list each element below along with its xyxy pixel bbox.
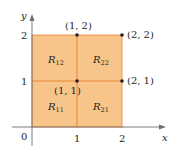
x-axis-arrow-icon (159, 125, 166, 130)
x-tick-1: 1 (74, 133, 80, 144)
origin-label: 0 (21, 131, 27, 142)
point-2-1 (120, 79, 124, 83)
point-label-2-1: (2, 1) (127, 75, 154, 86)
point-1-1 (75, 79, 79, 83)
x-tick-2: 2 (119, 133, 125, 144)
point-label-1-1: (1, 1) (54, 85, 81, 96)
y-axis-label: y (20, 10, 27, 21)
diagram-canvas: y x 0 1 2 1 2 R12 R22 R11 R21 (1, 2) (2,… (0, 0, 179, 156)
point-label-1-2: (1, 2) (65, 20, 92, 31)
point-2-2 (120, 33, 124, 37)
y-axis-arrow-icon (30, 14, 35, 21)
y-tick-1: 1 (21, 76, 27, 87)
point-1-2 (75, 33, 79, 37)
x-axis-label: x (162, 132, 168, 143)
point-label-2-2: (2, 2) (127, 29, 154, 40)
y-tick-2: 2 (21, 30, 27, 41)
